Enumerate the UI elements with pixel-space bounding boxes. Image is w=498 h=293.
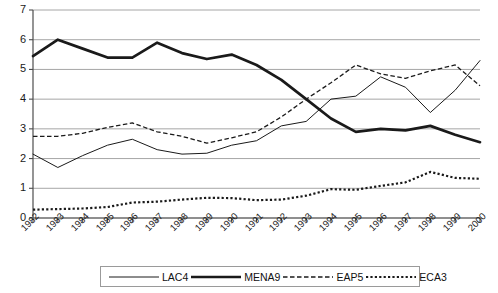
legend-label: EAP5 — [335, 271, 364, 283]
y-tick-label: 3 — [4, 123, 26, 134]
series-line-eca3 — [33, 172, 480, 210]
legend-item-lac4: LAC4 — [107, 271, 189, 283]
chart-canvas — [0, 0, 498, 293]
y-tick-label: 4 — [4, 93, 26, 104]
legend-swatch-thick-solid — [189, 271, 243, 283]
y-tick-label: 1 — [4, 182, 26, 193]
y-tick-label: 5 — [4, 63, 26, 74]
y-tick-label: 2 — [4, 153, 26, 164]
data-series-group — [33, 40, 480, 210]
y-tick-label: 6 — [4, 34, 26, 45]
series-line-eap5 — [33, 65, 480, 143]
chart-axes — [33, 10, 480, 218]
legend-item-mena9: MENA9 — [189, 271, 281, 283]
series-line-mena9 — [33, 40, 480, 143]
legend-label: ECA3 — [418, 271, 447, 283]
gridlines — [33, 10, 480, 218]
legend-label: LAC4 — [161, 271, 189, 283]
y-tick-label: 7 — [4, 4, 26, 15]
legend-item-eap5: EAP5 — [281, 271, 364, 283]
legend-swatch-thin-solid — [107, 271, 161, 283]
legend-item-eca3: ECA3 — [364, 271, 447, 283]
legend-swatch-dotted — [364, 271, 418, 283]
legend-swatch-dashed — [281, 271, 335, 283]
legend-label: MENA9 — [243, 271, 281, 283]
line-chart: 01234567 1982198319841985198619871988198… — [0, 0, 498, 293]
chart-legend: LAC4MENA9EAP5ECA3 — [100, 266, 420, 287]
